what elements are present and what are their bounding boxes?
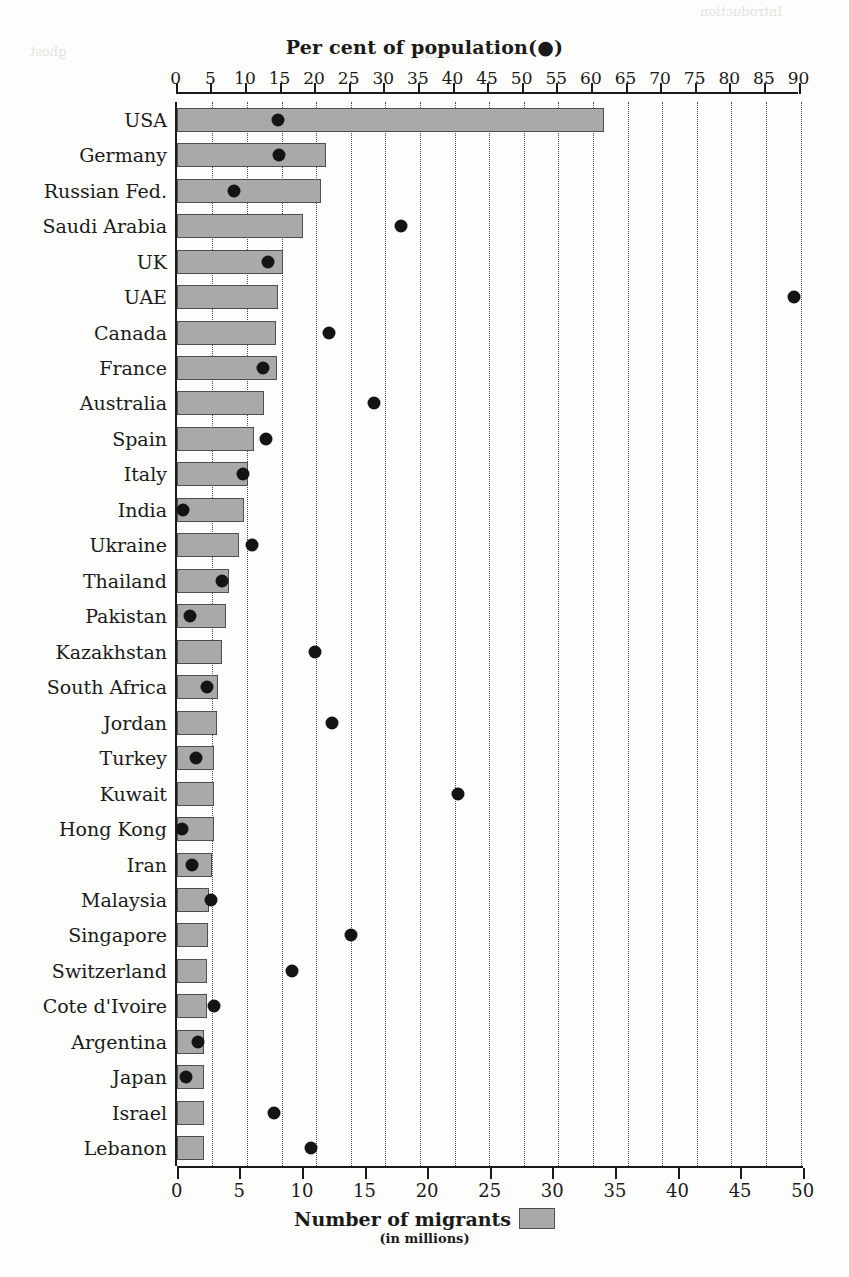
percent-dot xyxy=(256,361,269,374)
chart-row: Pakistan xyxy=(177,599,799,634)
country-label-jordan: Jordan xyxy=(103,712,167,734)
bottom-tick-25: 25 xyxy=(470,1180,510,1201)
migrants-bar xyxy=(177,533,239,557)
country-label-hong-kong: Hong Kong xyxy=(59,818,167,840)
top-axis-tick xyxy=(522,83,524,94)
country-label-israel: Israel xyxy=(112,1102,167,1124)
percent-dot xyxy=(309,645,322,658)
chart-row: USA xyxy=(177,102,799,137)
chart-row: Russian Fed. xyxy=(177,173,799,208)
migrants-bar xyxy=(177,923,208,947)
page-header-ghost: Introduction xyxy=(700,4,782,19)
percent-dot xyxy=(175,823,188,836)
bottom-tick-30: 30 xyxy=(532,1180,572,1201)
bottom-axis-tick xyxy=(678,1168,680,1179)
chart-row: Spain xyxy=(177,421,799,456)
top-axis-tick xyxy=(383,83,385,94)
bottom-tick-5: 5 xyxy=(219,1180,259,1201)
bottom-tick-10: 10 xyxy=(282,1180,322,1201)
migrants-bar xyxy=(177,321,276,345)
legend: Number of migrants (in millions) xyxy=(0,1208,849,1246)
percent-dot xyxy=(267,1106,280,1119)
top-axis-tick xyxy=(660,83,662,94)
migrants-bar xyxy=(177,285,278,309)
percent-dot xyxy=(262,255,275,268)
country-label-japan: Japan xyxy=(112,1066,167,1088)
chart-row: Israel xyxy=(177,1095,799,1130)
chart-row: India xyxy=(177,492,799,527)
chart-row: Switzerland xyxy=(177,953,799,988)
country-label-pakistan: Pakistan xyxy=(85,605,167,627)
percent-dot xyxy=(285,964,298,977)
country-label-kuwait: Kuwait xyxy=(100,783,167,805)
plot-area: USAGermanyRussian Fed.Saudi ArabiaUKUAEC… xyxy=(175,102,799,1166)
chart-row: UK xyxy=(177,244,799,279)
top-axis-tick xyxy=(453,83,455,94)
bottom-axis-tick xyxy=(177,1168,179,1179)
country-label-lebanon: Lebanon xyxy=(84,1137,167,1159)
chart-row: Germany xyxy=(177,137,799,172)
bottom-tick-50: 50 xyxy=(783,1180,823,1201)
top-axis-tick xyxy=(626,83,628,94)
top-axis-title: Per cent of population(●) xyxy=(0,36,849,58)
chart-row: Australia xyxy=(177,386,799,421)
country-label-south-africa: South Africa xyxy=(47,676,167,698)
top-axis-tick xyxy=(176,83,178,94)
legend-main-row: Number of migrants xyxy=(0,1208,849,1230)
percent-dot xyxy=(189,752,202,765)
migrants-bar xyxy=(177,143,326,167)
percent-dot xyxy=(185,858,198,871)
country-label-uae: UAE xyxy=(124,286,167,308)
chart-row: Hong Kong xyxy=(177,811,799,846)
country-label-thailand: Thailand xyxy=(83,570,167,592)
country-label-india: India xyxy=(118,499,167,521)
legend-label: Number of migrants xyxy=(294,1208,511,1230)
top-axis-tick xyxy=(418,83,420,94)
top-axis-tick xyxy=(764,83,766,94)
chart-row: Saudi Arabia xyxy=(177,208,799,243)
percent-dot xyxy=(228,184,241,197)
bottom-axis-tick xyxy=(365,1168,367,1179)
percent-dot xyxy=(237,468,250,481)
bottom-axis-tick xyxy=(552,1168,554,1179)
percent-dot xyxy=(304,1142,317,1155)
percent-dot xyxy=(177,503,190,516)
migrants-bar xyxy=(177,179,321,203)
percent-dot xyxy=(184,610,197,623)
gridline-90 xyxy=(801,102,802,1166)
bottom-axis-tick xyxy=(803,1168,805,1179)
top-axis-tick xyxy=(349,83,351,94)
chart-row: Malaysia xyxy=(177,882,799,917)
migrants-bar xyxy=(177,391,264,415)
top-axis-tick xyxy=(729,83,731,94)
percent-dot xyxy=(215,574,228,587)
bottom-axis-tick xyxy=(740,1168,742,1179)
chart-row: UAE xyxy=(177,279,799,314)
bottom-axis-tick xyxy=(239,1168,241,1179)
bottom-tick-15: 15 xyxy=(345,1180,385,1201)
country-label-malaysia: Malaysia xyxy=(81,889,167,911)
top-axis-tick xyxy=(210,83,212,94)
bottom-tick-0: 0 xyxy=(157,1180,197,1201)
percent-dot xyxy=(272,149,285,162)
country-label-russian-fed: Russian Fed. xyxy=(44,180,167,202)
country-label-australia: Australia xyxy=(80,392,167,414)
legend-unit-label: (in millions) xyxy=(0,1231,849,1246)
migrants-bar xyxy=(177,711,217,735)
percent-dot xyxy=(204,893,217,906)
chart-row: Ukraine xyxy=(177,528,799,563)
country-label-france: France xyxy=(99,357,167,379)
chart-row: Iran xyxy=(177,847,799,882)
bottom-axis-tick xyxy=(302,1168,304,1179)
top-axis-tick xyxy=(799,83,801,94)
top-axis-tick xyxy=(245,83,247,94)
chart-row: Argentina xyxy=(177,1024,799,1059)
percent-dot xyxy=(344,929,357,942)
percent-dot xyxy=(272,113,285,126)
top-axis-tick xyxy=(314,83,316,94)
chart-row: Thailand xyxy=(177,563,799,598)
country-label-spain: Spain xyxy=(112,428,167,450)
chart-row: Jordan xyxy=(177,705,799,740)
country-label-ukraine: Ukraine xyxy=(90,534,168,556)
percent-dot xyxy=(246,539,259,552)
